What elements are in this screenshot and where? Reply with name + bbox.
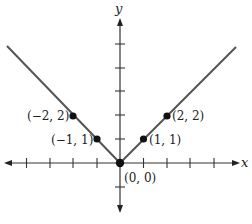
abs-value-line	[7, 46, 236, 163]
label-1-1: (1, 1)	[149, 133, 181, 147]
label-0-0: (0, 0)	[124, 171, 156, 185]
y-axis-label: y	[114, 1, 123, 16]
label-neg1-1: (−1, 1)	[51, 133, 93, 147]
x-axis: x	[6, 155, 249, 170]
point-neg1-1	[93, 135, 100, 142]
point-1-1	[140, 135, 147, 142]
point-2-2	[163, 112, 170, 119]
label-2-2: (2, 2)	[172, 109, 204, 123]
label-neg2-2: (−2, 2)	[27, 109, 69, 123]
point-neg2-2	[69, 112, 76, 119]
point-0-0	[116, 159, 124, 167]
x-axis-label: x	[241, 155, 249, 170]
chart: x y (−2, 2) (−1, 1) (0, 0) (1, 1) (2, 2)	[0, 0, 252, 224]
